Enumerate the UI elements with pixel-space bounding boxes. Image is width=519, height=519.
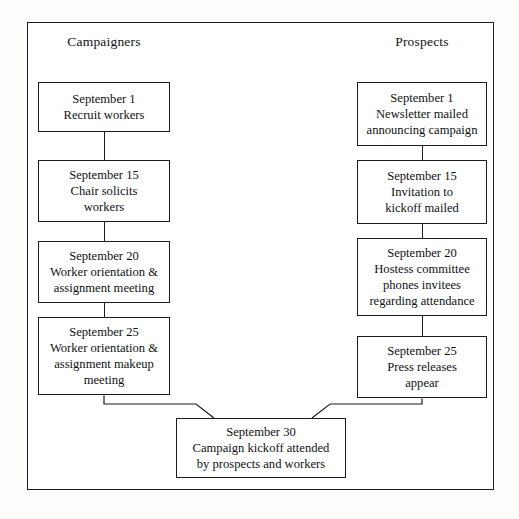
node-date: September 25: [69, 324, 139, 340]
node-right-september-25[interactable]: September 25 Press releases appear: [357, 336, 487, 398]
node-text-line-2: Campaign kickoff attended: [193, 440, 330, 456]
node-right-september-20[interactable]: September 20 Hostess committee phones in…: [357, 238, 487, 316]
node-date: September 30: [226, 424, 296, 440]
node-date: September 1: [72, 91, 135, 107]
node-text-line-2: Chair solicits: [71, 183, 138, 199]
flowchart-page: Campaigners Prospects September 1 Recrui…: [0, 0, 519, 519]
node-text-line-2: Worker orientation &: [50, 340, 158, 356]
node-text-line-3: phones invitees: [383, 277, 461, 293]
node-text-line-2: Recruit workers: [64, 107, 145, 123]
node-text-line-4: regarding attendance: [369, 293, 474, 309]
node-date: September 15: [69, 167, 139, 183]
node-text-line-3: assignment meeting: [54, 280, 154, 296]
node-text-line-2: Newsletter mailed: [376, 106, 468, 122]
node-left-september-25[interactable]: September 25 Worker orientation & assign…: [38, 317, 170, 395]
node-date: September 15: [387, 168, 457, 184]
node-text-line-3: assignment makeup: [54, 356, 154, 372]
node-merge-september-30[interactable]: September 30 Campaign kickoff attended b…: [176, 418, 346, 478]
node-text-line-2: Worker orientation &: [50, 264, 158, 280]
node-text-line-3: announcing campaign: [367, 122, 478, 138]
node-left-september-1[interactable]: September 1 Recruit workers: [38, 82, 170, 132]
node-text-line-2: Invitation to: [391, 184, 453, 200]
node-text-line-2: Press releases: [387, 359, 457, 375]
node-text-line-3: kickoff mailed: [385, 200, 459, 216]
connector-right-1-to-2: [422, 146, 423, 160]
node-text-line-2: Hostess committee: [374, 261, 470, 277]
node-right-september-1[interactable]: September 1 Newsletter mailed announcing…: [357, 82, 487, 146]
node-date: September 1: [390, 90, 453, 106]
column-heading-prospects: Prospects: [357, 34, 487, 50]
connector-left-2-to-3: [104, 222, 105, 241]
connector-left-3-to-4: [104, 303, 105, 317]
node-text-line-4: meeting: [84, 372, 125, 388]
node-date: September 20: [69, 248, 139, 264]
node-date: September 20: [387, 245, 457, 261]
column-heading-campaigners: Campaigners: [38, 34, 170, 50]
node-right-september-15[interactable]: September 15 Invitation to kickoff maile…: [357, 160, 487, 224]
node-date: September 25: [387, 343, 457, 359]
node-text-line-3: workers: [84, 199, 125, 215]
node-left-september-15[interactable]: September 15 Chair solicits workers: [38, 160, 170, 222]
node-text-line-3: appear: [405, 375, 439, 391]
connector-right-2-to-3: [422, 224, 423, 238]
node-text-line-3: by prospects and workers: [197, 456, 325, 472]
connector-right-3-to-4: [422, 316, 423, 336]
connector-left-1-to-2: [104, 132, 105, 160]
node-left-september-20[interactable]: September 20 Worker orientation & assign…: [38, 241, 170, 303]
